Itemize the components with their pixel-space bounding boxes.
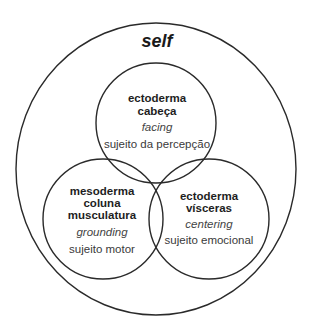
top-italic: facing	[142, 121, 173, 133]
right-line-2: vísceras	[186, 202, 232, 214]
left-subtitle: sujeito motor	[69, 243, 135, 255]
right-line-1: ectoderma	[180, 190, 239, 202]
left-line-3: musculatura	[68, 209, 137, 221]
right-italic: centering	[185, 218, 233, 230]
left-line-2: coluna	[83, 197, 121, 209]
venn-diagram: self ectoderma cabeça facing sujeito da …	[0, 0, 315, 333]
top-line-2: cabeça	[137, 105, 177, 117]
self-label: self	[141, 31, 174, 51]
bottom-left-circle-text: mesoderma coluna musculatura grounding s…	[68, 185, 137, 255]
right-subtitle: sujeito emocional	[165, 234, 254, 246]
outer-circle-self	[16, 23, 296, 315]
top-subtitle: sujeito da percepção	[104, 138, 210, 150]
left-line-1: mesoderma	[70, 185, 135, 197]
bottom-right-circle-text: ectoderma vísceras centering sujeito emo…	[165, 190, 254, 246]
top-circle-text: ectoderma cabeça facing sujeito da perce…	[104, 92, 210, 150]
top-line-1: ectoderma	[128, 92, 187, 104]
left-italic: grounding	[76, 226, 128, 238]
